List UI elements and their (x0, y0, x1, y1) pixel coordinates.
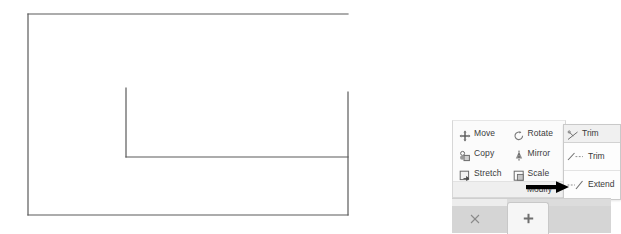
flyout-item-trim-label: Trim (588, 152, 605, 161)
new-sheet-tab[interactable] (507, 202, 549, 234)
mirror-icon (513, 148, 525, 160)
stretch-icon (459, 168, 471, 180)
trim-large-icon (567, 150, 584, 164)
sheet-tab-strip (452, 198, 611, 233)
move-button-label: Move (474, 129, 495, 138)
flyout-item-trim[interactable]: Trim (564, 143, 620, 171)
move-icon (459, 128, 471, 140)
modify-buttons-column-left: Move Copy (456, 124, 510, 183)
modify-buttons-column-right: Rotate Mirror Scale (510, 124, 564, 183)
mirror-button[interactable]: Mirror (510, 144, 564, 163)
copy-button[interactable]: Copy (456, 144, 510, 163)
rotate-button-label: Rotate (528, 129, 554, 138)
drawing-geometry (0, 0, 400, 232)
rotate-button[interactable]: Rotate (510, 124, 564, 143)
pointer-arrow-annotation (526, 180, 570, 194)
copy-icon (459, 148, 471, 160)
copy-button-label: Copy (474, 149, 494, 158)
move-button[interactable]: Move (456, 124, 510, 143)
arrow-icon (526, 180, 570, 194)
trim-icon (567, 128, 579, 140)
rotate-icon (513, 128, 525, 140)
flyout-header-label: Trim (582, 129, 599, 138)
modify-panel-body: Move Copy (453, 121, 565, 183)
flyout-item-extend-label: Extend (588, 180, 614, 189)
scale-button-label: Scale (528, 169, 550, 178)
scale-icon (513, 168, 525, 180)
drawing-canvas[interactable] (0, 0, 400, 232)
trim-extend-flyout[interactable]: Trim Trim Extend (563, 124, 621, 200)
new-sheet-plus-icon (523, 210, 534, 228)
flyout-header-trim[interactable]: Trim (564, 125, 620, 143)
mirror-button-label: Mirror (528, 149, 551, 158)
model-tab-icon[interactable] (470, 210, 480, 220)
flyout-item-extend[interactable]: Extend (564, 171, 620, 198)
stretch-button-label: Stretch (474, 169, 502, 178)
